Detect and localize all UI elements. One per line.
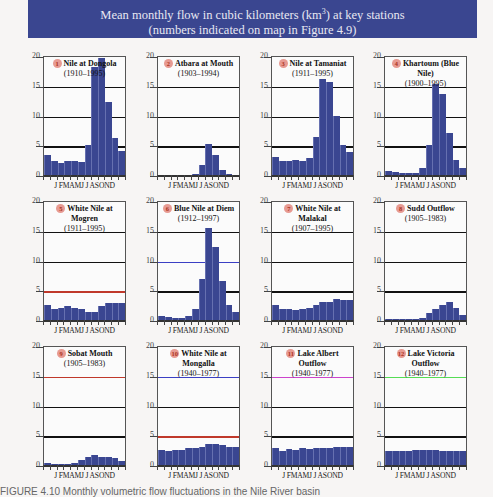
bar-M: [71, 161, 78, 175]
y-tick-label: 0: [248, 316, 268, 324]
y-tick: [36, 262, 44, 263]
station-name: White Nile at Malakal: [295, 204, 340, 223]
chart-panel-5: 201510505White Nile at Mogren(1911–1995)…: [16, 197, 128, 337]
station-name: Nile at Dongola: [64, 59, 117, 68]
bar-M: [58, 308, 65, 320]
bar-J: [313, 305, 320, 320]
station-period: (1903–1994): [160, 69, 237, 79]
y-tick-label: 15: [361, 372, 381, 380]
station-number-badge: 3: [279, 59, 288, 68]
bar-S: [98, 457, 105, 465]
bar-D: [232, 312, 239, 320]
bar-J: [272, 157, 279, 175]
x-ticks: [43, 320, 126, 325]
month-labels: J FMAMJ J ASOND: [157, 181, 240, 190]
station-number-badge: 10: [170, 349, 179, 358]
y-tick: [36, 377, 44, 378]
bar-J: [158, 450, 165, 465]
y-tick-label: 5: [134, 286, 154, 294]
y-tick-label: 20: [248, 52, 268, 60]
bar-N: [112, 303, 119, 320]
bar-J: [199, 165, 206, 175]
chart-panel-3: 201510503Nile at Tamaniat(1911–1995)J FM…: [244, 52, 356, 192]
station-label: 12Lake Victoria Outflow(1940–1977): [387, 349, 464, 379]
month-labels: J FMAMJ J ASOND: [271, 471, 354, 480]
y-tick-label: 15: [248, 372, 268, 380]
station-number-badge: 11: [286, 349, 295, 358]
y-tick: [264, 117, 272, 118]
station-number-badge: 2: [164, 59, 173, 68]
station-period: (1911–1995): [274, 69, 351, 79]
bar-A: [405, 451, 412, 465]
y-tick-label: 5: [134, 431, 154, 439]
y-tick-label: 5: [20, 431, 40, 439]
y-tick: [377, 436, 385, 437]
chart-panel-12: 2015105012Lake Victoria Outflow(1940–197…: [357, 342, 469, 482]
bar-F: [279, 161, 286, 175]
bar-J: [44, 305, 51, 320]
chart-panel-11: 2015105011Lake Albert Outflow(1940–1977)…: [244, 342, 356, 482]
y-tick-label: 0: [20, 461, 40, 469]
bar-F: [51, 309, 58, 320]
y-tick: [377, 291, 385, 292]
station-label: 3Nile at Tamaniat(1911–1995): [274, 59, 351, 79]
station-number-badge: 4: [392, 59, 401, 68]
y-tick-label: 20: [248, 342, 268, 350]
y-tick-label: 0: [248, 171, 268, 179]
bar-F: [392, 451, 399, 465]
x-ticks: [271, 320, 354, 325]
y-tick-label: 5: [248, 141, 268, 149]
y-tick: [377, 87, 385, 88]
station-name: Atbara at Mouth: [175, 59, 233, 68]
figure-title-banner: Mean monthly flow in cubic kilometers (k…: [28, 0, 477, 38]
month-labels: J FMAMJ J ASOND: [271, 181, 354, 190]
station-label: 11Lake Albert Outflow(1940–1977): [274, 349, 351, 379]
y-tick-label: 10: [361, 112, 381, 120]
y-tick-label: 20: [361, 197, 381, 205]
y-tick-label: 5: [134, 141, 154, 149]
y-tick: [150, 117, 158, 118]
x-ticks: [271, 465, 354, 470]
y-tick: [377, 232, 385, 233]
station-period: (1900–1995): [387, 79, 464, 89]
bar-N: [226, 447, 233, 465]
y-tick: [264, 262, 272, 263]
y-tick: [150, 232, 158, 233]
station-period: (1940–1977): [160, 369, 237, 379]
bar-O: [333, 299, 340, 320]
bar-J: [78, 309, 85, 320]
bar-J: [78, 162, 85, 175]
y-tick-label: 0: [361, 171, 381, 179]
bar-M: [399, 451, 406, 465]
bar-M: [71, 308, 78, 320]
y-tick-label: 20: [20, 197, 40, 205]
y-tick-label: 15: [248, 82, 268, 90]
chart-panel-9: 201510509Sobat Mouth(1905–1983)J FMAMJ J…: [16, 342, 128, 482]
bar-A: [292, 160, 299, 175]
bar-A: [205, 228, 212, 320]
bar-F: [51, 161, 58, 175]
station-period: (1940–1977): [274, 369, 351, 379]
y-tick: [150, 87, 158, 88]
y-tick-label: 5: [248, 431, 268, 439]
station-label: 6Blue Nile at Diem(1912–1997): [160, 204, 237, 224]
bar-N: [453, 160, 460, 175]
bar-S: [326, 302, 333, 320]
station-period: (1905–1983): [387, 214, 464, 224]
y-tick: [264, 146, 272, 147]
station-period: (1905–1983): [46, 359, 123, 369]
month-labels: J FMAMJ J ASOND: [43, 471, 126, 480]
y-tick-label: 20: [361, 52, 381, 60]
plot-area: 2Atbara at Mouth(1903–1994): [157, 56, 240, 175]
bar-O: [446, 302, 453, 320]
bar-O: [219, 445, 226, 465]
bar-A: [64, 161, 71, 175]
bar-O: [105, 303, 112, 320]
station-period: (1911–1995): [46, 224, 123, 234]
bar-J: [385, 451, 392, 465]
station-number-badge: 5: [56, 204, 65, 213]
station-label: 8Sudd Outflow(1905–1983): [387, 204, 464, 224]
station-label: 10White Nile at Mongalla(1940–1977): [160, 349, 237, 379]
bar-J: [199, 279, 206, 320]
x-ticks: [384, 465, 467, 470]
